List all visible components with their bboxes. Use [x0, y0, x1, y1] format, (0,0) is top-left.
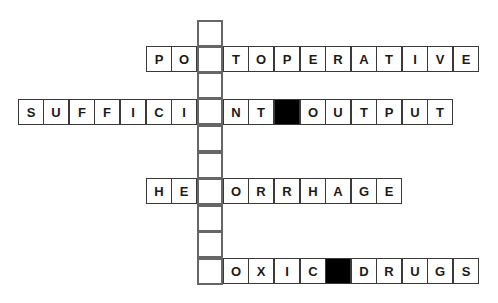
letter-cell: P [146, 46, 172, 72]
letter-cell: U [43, 99, 69, 125]
letter-cell: R [325, 46, 351, 72]
letter-cell: E [300, 46, 326, 72]
vertical-cell-3[interactable] [197, 72, 223, 99]
letter-cell: U [325, 99, 351, 125]
letter-cell: E [171, 178, 197, 204]
vertical-cell-input-5[interactable] [199, 127, 221, 150]
letter-cell: T [248, 99, 274, 125]
letter-cell: I [402, 46, 428, 72]
letter-cell: O [223, 258, 249, 284]
vertical-cell-input-4[interactable] [199, 100, 221, 123]
vertical-cell-input-10[interactable] [199, 260, 221, 283]
vertical-cell-6[interactable] [197, 152, 223, 179]
letter-cell: P [274, 46, 300, 72]
vertical-cell-9[interactable] [197, 231, 223, 258]
letter-cell: N [223, 99, 249, 125]
letter-cell: C [146, 99, 172, 125]
letter-cell: T [427, 99, 453, 125]
letter-cell: T [351, 99, 377, 125]
letter-cell: T [376, 46, 402, 72]
letter-cell: S [18, 99, 44, 125]
vertical-cell-input-9[interactable] [199, 233, 221, 256]
crossword-puzzle: P O T O P E R A T I V E S U F F I C I N … [0, 0, 498, 303]
letter-cell: O [171, 46, 197, 72]
letter-cell: P [376, 99, 402, 125]
vertical-cell-4[interactable] [197, 98, 223, 125]
vertical-cell-input-2[interactable] [199, 48, 221, 71]
letter-cell: G [427, 258, 453, 284]
letter-cell: H [300, 178, 326, 204]
letter-cell: F [69, 99, 95, 125]
letter-cell: R [274, 178, 300, 204]
letter-cell: U [402, 99, 428, 125]
vertical-cell-input-1[interactable] [199, 22, 221, 45]
letter-cell: F [94, 99, 120, 125]
letter-cell: U [402, 258, 428, 284]
letter-cell: T [223, 46, 249, 72]
letter-cell: I [120, 99, 146, 125]
vertical-cell-input-6[interactable] [199, 154, 221, 177]
vertical-cell-7[interactable] [197, 178, 223, 205]
letter-cell: R [376, 258, 402, 284]
letter-cell: C [300, 258, 326, 284]
letter-cell: O [223, 178, 249, 204]
vertical-cell-1[interactable] [197, 20, 223, 47]
vertical-cell-10[interactable] [197, 258, 223, 285]
letter-cell: I [171, 99, 197, 125]
vertical-cell-5[interactable] [197, 125, 223, 152]
letter-cell: V [427, 46, 453, 72]
vertical-cell-input-8[interactable] [199, 207, 221, 230]
letter-cell: H [146, 178, 172, 204]
letter-cell: A [351, 46, 377, 72]
vertical-cell-input-3[interactable] [199, 74, 221, 97]
letter-cell: O [248, 46, 274, 72]
black-cell [274, 99, 300, 125]
letter-cell: X [248, 258, 274, 284]
letter-cell: G [351, 178, 377, 204]
vertical-cell-8[interactable] [197, 205, 223, 232]
letter-cell: O [300, 99, 326, 125]
letter-cell: I [274, 258, 300, 284]
vertical-cell-2[interactable] [197, 46, 223, 73]
letter-cell: S [453, 258, 479, 284]
letter-cell: E [376, 178, 402, 204]
letter-cell: R [248, 178, 274, 204]
black-cell [325, 258, 351, 284]
letter-cell: D [351, 258, 377, 284]
vertical-cell-input-7[interactable] [199, 180, 221, 203]
letter-cell: E [453, 46, 479, 72]
letter-cell: A [325, 178, 351, 204]
